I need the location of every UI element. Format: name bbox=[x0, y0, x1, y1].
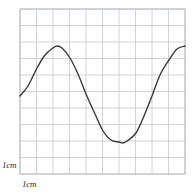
horizontal-scale-label: 1cm bbox=[22, 180, 36, 189]
graph-figure: 1cm 1cm bbox=[0, 0, 192, 195]
grid-lines bbox=[20, 9, 185, 174]
graph-paper-canvas bbox=[0, 0, 192, 195]
vertical-scale-label: 1cm bbox=[2, 161, 16, 170]
